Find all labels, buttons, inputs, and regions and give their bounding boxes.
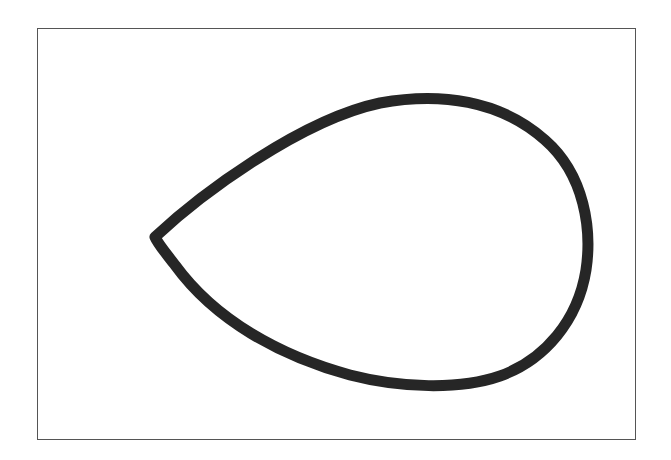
teardrop-shape bbox=[155, 98, 588, 385]
diagram-canvas bbox=[0, 0, 671, 460]
